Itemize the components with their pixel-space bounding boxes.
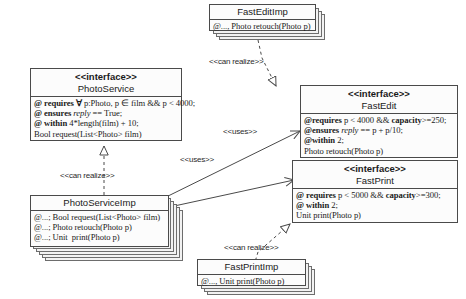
member-line: @requires p < 4000 && capacity>=250;	[304, 115, 455, 125]
interface-photo-service-members: @ requires ∀ p:Photo, p ∈ film && p < 40…	[31, 97, 181, 140]
class-fast-edit-imp[interactable]: FastEditImp @..., Photo retouch(Photo p)	[209, 4, 316, 31]
connector-uses-fastedit	[160, 131, 300, 200]
class-fast-edit-imp-title: FastEditImp	[210, 5, 315, 19]
member-line: @ensures reply == p + p/10;	[304, 125, 455, 135]
member-line: Photo retouch(Photo p)	[304, 146, 455, 156]
interface-fast-edit[interactable]: <<interface>> FastEdit @requires p < 400…	[300, 85, 458, 158]
interface-fast-edit-members: @requires p < 4000 && capacity>=250; @en…	[301, 114, 457, 157]
class-photo-service-imp-title: PhotoServiceImp	[31, 196, 168, 210]
connector-label-uses-fastedit: <<uses>>	[223, 127, 257, 136]
uml-diagram-canvas: FastEdit (can realize, dashed, hollow tr…	[0, 0, 466, 299]
member-line: Bool request(List<Photo> film)	[34, 129, 179, 139]
member-line: Unit print(Photo p)	[296, 210, 455, 220]
connector-label-can-realize-top: <<can realize>>	[209, 57, 263, 66]
connector-label-uses-fastprint: <<uses>>	[180, 155, 214, 164]
class-fast-edit-imp-members: @..., Photo retouch(Photo p)	[210, 20, 315, 32]
member-line: @ requires ∀ p:Photo, p ∈ film && p < 40…	[34, 98, 179, 108]
interface-fast-print-stereotype: <<interface>>	[293, 161, 457, 174]
member-line: @..., Photo retouch(Photo p)	[213, 21, 313, 31]
member-line: @ within 2;	[296, 200, 455, 210]
member-line: @within 2;	[304, 135, 455, 145]
class-fast-print-imp[interactable]: FastPrintImp @..., Unit print(Photo p)	[197, 259, 306, 286]
member-line: @...; Bool request(List<Photo> film)	[34, 212, 166, 222]
interface-photo-service[interactable]: <<interface>> PhotoService @ requires ∀ …	[30, 68, 182, 141]
interface-fast-print-members: @ requires p < 5000 && capacity>=300; @ …	[293, 189, 457, 222]
connector-label-can-realize-bottom: <<can realize>>	[224, 243, 278, 252]
member-line: @...; Unit print(Photo p)	[34, 232, 166, 242]
member-line: @ requires p < 5000 && capacity>=300;	[296, 190, 455, 200]
class-photo-service-imp-members: @...; Bool request(List<Photo> film) @..…	[31, 211, 168, 244]
member-line: @...; Photo retouch(Photo p)	[34, 222, 166, 232]
interface-photo-service-title: PhotoService	[31, 82, 181, 96]
interface-fast-print-title: FastPrint	[293, 174, 457, 188]
interface-photo-service-stereotype: <<interface>>	[31, 69, 181, 82]
class-photo-service-imp[interactable]: PhotoServiceImp @...; Bool request(List<…	[30, 195, 169, 247]
interface-fast-edit-title: FastEdit	[301, 99, 457, 113]
member-line: @ ensures reply == True;	[34, 108, 179, 118]
connector-label-can-realize-left: <<can realize>>	[60, 171, 114, 180]
member-line: @..., Unit print(Photo p)	[201, 276, 303, 286]
class-fast-print-imp-title: FastPrintImp	[198, 260, 305, 274]
member-line: @ within 4*length(film) + 10;	[34, 118, 179, 128]
interface-fast-print[interactable]: <<interface>> FastPrint @ requires p < 5…	[292, 160, 458, 223]
class-fast-print-imp-members: @..., Unit print(Photo p)	[198, 275, 305, 287]
interface-fast-edit-stereotype: <<interface>>	[301, 86, 457, 99]
